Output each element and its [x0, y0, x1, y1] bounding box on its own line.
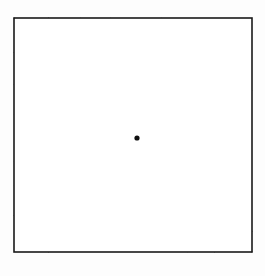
geometric-figure: Dashed radial starburst over dashed grid… [0, 0, 265, 276]
center-point [134, 135, 139, 140]
square-border [14, 18, 252, 252]
